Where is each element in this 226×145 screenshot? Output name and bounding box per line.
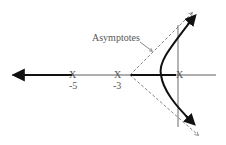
pole-label-1: -5 [69, 81, 77, 91]
pole-marker-2: X [114, 70, 121, 80]
annotation-pointer [140, 42, 152, 51]
root-locus-diagram: Asymptotes X -5 X -3 X [0, 0, 226, 145]
pole-marker-3: X [176, 70, 183, 80]
pole-label-2: -3 [113, 81, 121, 91]
root-locus-plot [0, 0, 226, 145]
asymptotes-label: Asymptotes [92, 33, 140, 43]
pole-marker-1: X [69, 70, 76, 80]
